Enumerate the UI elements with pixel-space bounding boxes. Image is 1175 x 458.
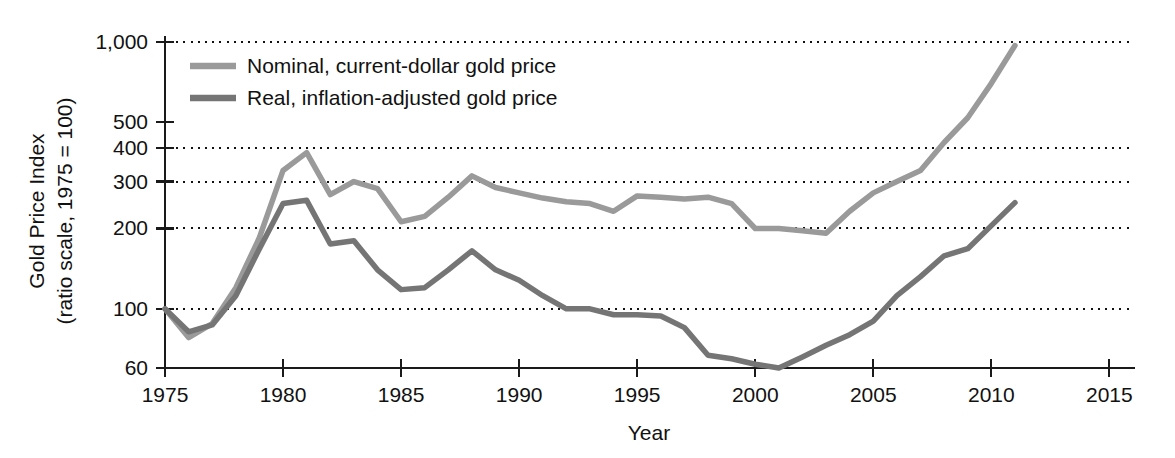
x-tick-label-1980: 1980 [260, 383, 307, 406]
chart-canvas: 601002003004005001,000 19751980198519901… [0, 0, 1175, 458]
y-tick-label-100: 100 [113, 297, 148, 320]
y-axis-subtitle: (ratio scale, 1975 = 100) [53, 97, 76, 324]
x-tick-label-2015: 2015 [1086, 383, 1133, 406]
x-tick-label-2010: 2010 [968, 383, 1015, 406]
x-axis-title: Year [628, 421, 670, 444]
x-tick-label-1995: 1995 [614, 383, 661, 406]
x-tick-label-2000: 2000 [732, 383, 779, 406]
legend-label-1: Real, inflation-adjusted gold price [247, 86, 558, 109]
y-tick-label-400: 400 [113, 136, 148, 159]
y-tick-label-500: 500 [113, 110, 148, 133]
y-tick-label-200: 200 [113, 216, 148, 239]
x-tick-label-1985: 1985 [378, 383, 425, 406]
x-tick-label-1990: 1990 [496, 383, 543, 406]
y-tick-label-300: 300 [113, 170, 148, 193]
y-axis-title: Gold Price Index [25, 133, 48, 289]
gold-price-index-chart: 601002003004005001,000 19751980198519901… [0, 0, 1175, 458]
y-tick-label-60: 60 [125, 356, 148, 379]
x-tick-label-2005: 2005 [850, 383, 897, 406]
x-tick-label-1975: 1975 [142, 383, 189, 406]
legend-label-0: Nominal, current-dollar gold price [247, 54, 556, 77]
y-tick-label-1000: 1,000 [95, 30, 148, 53]
